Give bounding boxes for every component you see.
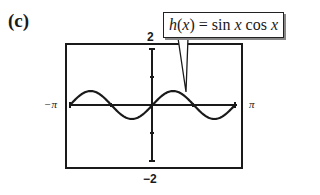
expression-part: cos — [242, 16, 271, 33]
function-arg: x — [182, 16, 189, 33]
function-name: h — [169, 16, 177, 33]
expression-var: x — [234, 16, 241, 33]
y-max-label: 2 — [147, 30, 154, 44]
y-min-label: −2 — [143, 172, 157, 186]
expression-part: = sin — [195, 16, 235, 33]
x-min-label: −π — [44, 98, 57, 110]
expression-var: x — [271, 16, 278, 33]
x-max-label: π — [249, 98, 255, 110]
function-callout: h(x) = sin x cos x — [163, 12, 284, 38]
callout-expression: h(x) = sin x cos x — [164, 16, 283, 34]
